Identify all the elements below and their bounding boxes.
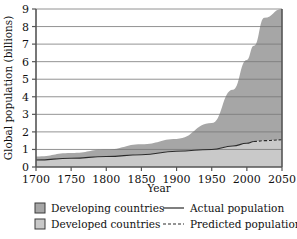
y-tick-label: 4	[22, 91, 29, 104]
x-tick-label: 1750	[57, 173, 85, 186]
y-tick-label: 2	[22, 126, 29, 139]
population-chart: 0123456789 17001750180018501900195020002…	[0, 0, 297, 239]
y-tick-label: 5	[22, 73, 29, 86]
x-tick-label: 2000	[233, 173, 261, 186]
y-tick-label: 3	[22, 108, 29, 121]
y-axis-title: Global population (billions)	[2, 16, 14, 161]
x-tick-label: 1800	[92, 173, 120, 186]
chart-legend: Developing countries Developed countries…	[35, 202, 297, 230]
legend-label-developed: Developed countries	[51, 218, 160, 230]
chart-svg: 0123456789 17001750180018501900195020002…	[0, 0, 297, 239]
x-axis-title: Year	[146, 182, 171, 194]
legend-swatch-developing	[35, 203, 45, 213]
y-tick-label: 1	[22, 143, 29, 156]
y-tick-label: 7	[22, 38, 29, 51]
legend-label-actual: Actual population	[189, 202, 284, 214]
y-tick-label: 6	[22, 56, 29, 69]
y-axis-tick-labels: 0123456789	[22, 3, 29, 174]
y-tick-label: 9	[22, 3, 29, 16]
y-tick-label: 8	[22, 21, 29, 34]
x-tick-label: 2050	[268, 173, 296, 186]
legend-label-developing: Developing countries	[51, 202, 164, 214]
x-tick-label: 1950	[198, 173, 226, 186]
legend-label-predicted: Predicted population	[190, 218, 297, 230]
legend-swatch-developed	[35, 219, 45, 229]
x-tick-label: 1700	[22, 173, 50, 186]
